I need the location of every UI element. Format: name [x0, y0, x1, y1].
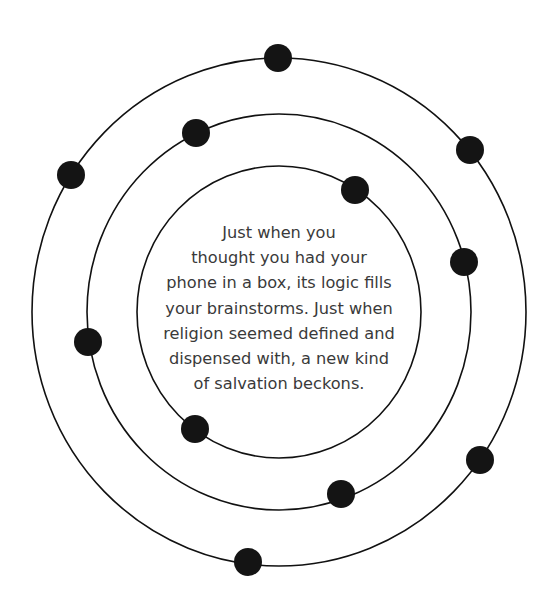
planet-dot-inner — [181, 415, 209, 443]
caption-line-4: your brainstorms. Just when — [139, 296, 419, 321]
planet-dot-outer — [234, 548, 262, 576]
caption-line-5: religion seemed defined and — [139, 321, 419, 346]
planet-dot-middle — [74, 328, 102, 356]
planet-dot-outer — [264, 44, 292, 72]
planet-dot-inner — [341, 176, 369, 204]
planet-dot-middle — [450, 248, 478, 276]
planet-dot-outer — [466, 446, 494, 474]
planet-dot-outer — [456, 136, 484, 164]
caption-line-6: dispensed with, a new kind — [139, 346, 419, 371]
planet-dot-outer — [57, 161, 85, 189]
caption-text: Just when you thought you had your phone… — [139, 220, 419, 396]
planet-dot-middle — [182, 119, 210, 147]
caption-line-3: phone in a box, its logic fills — [139, 270, 419, 295]
caption-line-2: thought you had your — [139, 245, 419, 270]
caption-line-7: of salvation beckons. — [139, 371, 419, 396]
planet-dot-middle — [327, 480, 355, 508]
caption-line-1: Just when you — [139, 220, 419, 245]
